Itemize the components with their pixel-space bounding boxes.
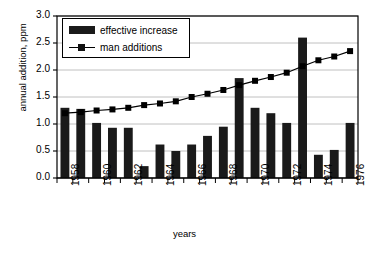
bar (282, 123, 291, 178)
data-point-marker (331, 54, 337, 60)
bar (219, 127, 228, 178)
legend-label-effective-increase: effective increase (100, 25, 178, 36)
data-point-marker (189, 94, 195, 100)
y-tick-label: 2.5 (18, 36, 50, 47)
bar (156, 145, 165, 178)
chart-figure: annual addition, ppm years 0.00.51.01.52… (0, 0, 369, 253)
bar (124, 128, 133, 178)
data-point-marker (284, 70, 290, 76)
data-point-marker (109, 106, 115, 112)
data-point-marker (173, 98, 179, 104)
y-tick-label: 2.0 (18, 63, 50, 74)
bar (314, 155, 323, 178)
y-tick-label: 1.0 (18, 117, 50, 128)
y-tick-label: 3.0 (18, 9, 50, 20)
data-point-marker (78, 109, 84, 115)
x-tick-label: 1970 (260, 146, 271, 186)
data-point-marker (220, 87, 226, 93)
data-point-marker (62, 110, 68, 116)
data-point-marker (205, 91, 211, 97)
data-point-marker (300, 63, 306, 69)
y-tick-label: 1.5 (18, 90, 50, 101)
data-point-marker (236, 82, 242, 88)
x-tick-label: 1972 (292, 146, 303, 186)
legend-label-man-additions: man additions (100, 42, 162, 53)
legend-item-effective-increase: effective increase (69, 22, 178, 38)
x-tick-label: 1974 (323, 146, 334, 186)
x-tick-label: 1968 (228, 146, 239, 186)
data-point-marker (347, 48, 353, 54)
x-tick-label: 1958 (70, 146, 81, 186)
legend-item-man-additions: man additions (69, 39, 162, 55)
bar-swatch-icon (69, 26, 95, 34)
line-square-marker-icon (69, 43, 95, 51)
legend: effective increase man additions (62, 18, 190, 58)
y-tick-label: 0.0 (18, 171, 50, 182)
bar (251, 108, 260, 178)
y-tick-label: 0.5 (18, 144, 50, 155)
x-tick-label: 1964 (165, 146, 176, 186)
x-tick-label: 1960 (102, 146, 113, 186)
data-point-marker (315, 57, 321, 63)
bar (346, 123, 355, 178)
x-tick-label: 1962 (133, 146, 144, 186)
data-point-marker (141, 102, 147, 108)
bar (187, 145, 196, 178)
data-point-marker (94, 108, 100, 114)
data-point-marker (157, 100, 163, 106)
data-point-marker (125, 105, 131, 111)
bar (60, 108, 69, 178)
x-tick-label: 1976 (355, 146, 366, 186)
x-tick-label: 1966 (197, 146, 208, 186)
data-point-marker (252, 78, 258, 84)
data-point-marker (268, 74, 274, 80)
bar (92, 123, 101, 178)
line-series (62, 48, 353, 116)
